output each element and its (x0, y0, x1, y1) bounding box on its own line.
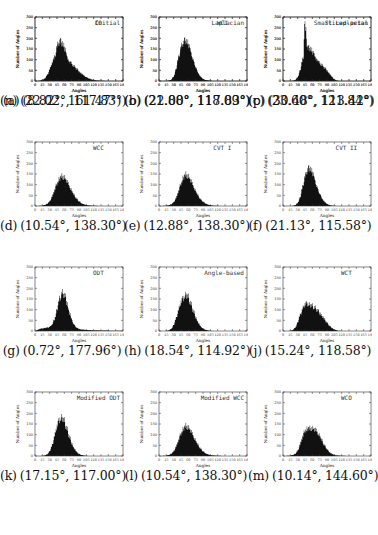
y-axis-label: Number of Angles (15, 280, 20, 319)
y-tick-label: 250 (26, 276, 34, 280)
x-tick-label: 105 (83, 208, 89, 212)
x-tick-label: 165 (236, 83, 242, 87)
x-tick-label: 0 (34, 208, 36, 212)
y-tick-label: 100 (274, 308, 282, 312)
histogram-panel-l: 0501001502002503000153045607590105120135… (124, 375, 248, 500)
x-tick-label: 90 (201, 458, 205, 462)
panel-label: (f) (248, 218, 262, 233)
x-tick-label: 30 (296, 458, 300, 462)
y-tick-label: 50 (28, 444, 33, 448)
x-tick-label: 120 (90, 333, 96, 337)
y-axis-label: Number of Angles (139, 155, 144, 194)
plot-frame (283, 392, 371, 456)
x-tick-label: 135 (346, 458, 352, 462)
histogram-chart: 0501001502002503000153045607590105120135… (124, 125, 248, 220)
x-tick-label: 75 (70, 458, 74, 462)
panel-angle-range: (0.72°, 177.96°) (23, 343, 122, 358)
x-tick-label: 0 (282, 83, 284, 87)
x-tick-label: 60 (310, 333, 314, 337)
x-tick-label: 60 (186, 83, 190, 87)
x-tick-label: 105 (331, 83, 337, 87)
panel-label: (m) (248, 468, 269, 483)
y-axis-label: Number of Angles (263, 280, 268, 319)
panel-label: (e) (124, 218, 141, 233)
x-tick-label: 0 (282, 333, 284, 337)
panel-caption: (l)(10.54°, 138.30°) (124, 468, 248, 483)
y-tick-label: 300 (150, 390, 158, 394)
x-tick-label: 45 (303, 333, 307, 337)
x-tick-label: 60 (310, 83, 314, 87)
panel-angle-range: (10.14°, 144.60°) (272, 468, 378, 483)
histogram-bars (44, 38, 93, 81)
y-tick-label: 150 (274, 297, 282, 301)
y-tick-label: 300 (274, 15, 282, 19)
plot-title: ODT (93, 269, 104, 276)
x-tick-label: 90 (325, 208, 329, 212)
panel-caption: (o)(21.88°, 118.09°) (124, 93, 248, 108)
plot-frame (159, 267, 247, 331)
x-tick-label: 180 (368, 333, 372, 337)
x-tick-label: 60 (310, 208, 314, 212)
histogram-bars (163, 423, 227, 456)
x-tick-label: 0 (158, 458, 160, 462)
x-tick-label: 30 (172, 458, 176, 462)
x-tick-label: 30 (296, 333, 300, 337)
x-tick-label: 15 (164, 83, 168, 87)
x-tick-label: 30 (48, 458, 52, 462)
panel-label: (o) (124, 93, 141, 108)
y-tick-label: 50 (276, 194, 281, 198)
x-tick-label: 135 (98, 208, 104, 212)
histogram-chart: 0501001502002503000153045607590105120135… (0, 0, 124, 95)
y-tick-label: 250 (274, 401, 282, 405)
x-tick-label: 30 (172, 208, 176, 212)
panel-label: (p) (248, 93, 265, 108)
plot-frame (35, 267, 123, 331)
x-tick-label: 90 (201, 83, 205, 87)
x-tick-label: 105 (207, 333, 213, 337)
panel-caption: (h)(18.54°, 114.92°) (124, 343, 248, 358)
y-tick-label: 100 (26, 433, 34, 437)
x-tick-label: 150 (229, 333, 235, 337)
y-axis-label: Number of Angles (139, 405, 144, 444)
x-tick-label: 120 (214, 83, 220, 87)
y-tick-label: 200 (274, 37, 282, 41)
x-tick-label: 165 (112, 333, 118, 337)
x-tick-label: 0 (34, 333, 36, 337)
y-tick-label: 250 (26, 401, 34, 405)
y-tick-label: 250 (26, 26, 34, 30)
x-tick-label: 30 (48, 333, 52, 337)
x-tick-label: 0 (158, 83, 160, 87)
histogram-panel-m: 0501001502002503000153045607590105120135… (248, 375, 372, 500)
x-tick-label: 60 (310, 458, 314, 462)
x-tick-label: 165 (236, 458, 242, 462)
y-tick-label: 300 (274, 140, 282, 144)
y-tick-label: 100 (150, 183, 158, 187)
y-axis-label: Number of Angles (263, 405, 268, 444)
x-tick-label: 150 (105, 458, 111, 462)
x-tick-label: 15 (40, 458, 44, 462)
x-tick-label: 150 (229, 83, 235, 87)
y-tick-label: 50 (28, 69, 33, 73)
x-tick-label: 165 (360, 83, 366, 87)
x-tick-label: 90 (77, 458, 81, 462)
histogram-bars (165, 292, 216, 331)
x-tick-label: 0 (282, 208, 284, 212)
x-tick-label: 150 (353, 458, 359, 462)
y-tick-label: 150 (274, 422, 282, 426)
x-tick-label: 165 (236, 208, 242, 212)
histogram-bars (36, 289, 122, 331)
x-tick-label: 45 (55, 333, 59, 337)
y-tick-label: 200 (150, 412, 158, 416)
histogram-panel-g: 0501001502002503000153045607590105120135… (0, 250, 124, 375)
x-tick-label: 165 (360, 208, 366, 212)
y-tick-label: 50 (28, 319, 33, 323)
x-tick-label: 60 (186, 333, 190, 337)
panel-label: (j) (249, 343, 262, 358)
histogram-panel-f: 0501001502002503000153045607590105120135… (248, 125, 372, 250)
y-tick-label: 200 (26, 162, 34, 166)
y-tick-label: 150 (150, 172, 158, 176)
y-tick-label: 150 (150, 47, 158, 51)
plot-title: Sliced-petal (325, 19, 369, 27)
y-tick-label: 50 (152, 69, 157, 73)
x-tick-label: 150 (353, 333, 359, 337)
